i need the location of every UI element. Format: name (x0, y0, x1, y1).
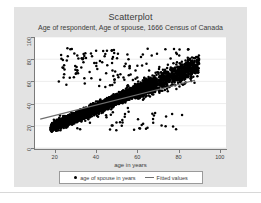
y-tick-label: 80 (26, 59, 32, 73)
x-axis-title: age in years (34, 162, 227, 168)
x-tick-label: 40 (87, 154, 105, 160)
x-axis-line (34, 149, 227, 150)
x-tick-label: 80 (170, 154, 188, 160)
x-tick-mark (220, 150, 221, 153)
legend-label-fit: Fitted values (157, 175, 188, 181)
chart-title: Scatterplot (14, 12, 247, 22)
legend-item-fit: Fitted values (145, 175, 188, 181)
y-tick-label: 40 (26, 103, 32, 117)
y-tick-label: 0 (26, 148, 32, 162)
legend-label-scatter: age of spouse in years (80, 175, 135, 181)
y-tick-label: 60 (26, 81, 32, 95)
y-axis-line (34, 37, 35, 149)
scatter-points (49, 47, 200, 133)
x-tick-label: 20 (46, 154, 64, 160)
dot-marker-icon (74, 176, 77, 179)
x-tick-mark (96, 150, 97, 153)
plot-region (34, 37, 226, 148)
screenshot-root: Scatterplot Age of respondent, Age of sp… (0, 0, 261, 203)
line-marker-icon (145, 177, 154, 178)
x-tick-label: 60 (128, 154, 146, 160)
chart-subtitle: Age of respondent, Age of spouse, 1666 C… (14, 24, 247, 31)
bottom-divider (0, 192, 261, 193)
chart-legend: age of spouse in years Fitted values (59, 171, 203, 184)
x-tick-mark (55, 150, 56, 153)
y-tick-label: 20 (26, 125, 32, 139)
graph-panel: Scatterplot Age of respondent, Age of sp… (14, 7, 247, 187)
y-tick-label: 100 (26, 37, 32, 51)
scatter-plot-svg (34, 37, 226, 148)
x-tick-mark (137, 150, 138, 153)
legend-item-scatter: age of spouse in years (74, 175, 135, 181)
x-tick-label: 100 (211, 154, 229, 160)
x-tick-mark (179, 150, 180, 153)
